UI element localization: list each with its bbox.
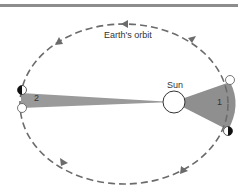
arrow-icon: [55, 37, 63, 45]
earth-position-icon: [224, 127, 233, 136]
area-2-sector: [21, 93, 173, 108]
arrow-icon: [60, 158, 68, 166]
area-2-label: 2: [34, 93, 39, 103]
sun-icon: [163, 91, 185, 113]
orbit-label: Earth's orbit: [104, 30, 152, 40]
arrow-icon: [188, 36, 196, 43]
earth-position-icon: [18, 86, 27, 95]
area-1-label: 1: [217, 97, 222, 107]
earth-position-icon: [18, 104, 27, 113]
arrow-icon: [121, 20, 128, 28]
earth-position-icon: [226, 76, 235, 85]
sun-label: Sun: [167, 80, 183, 90]
